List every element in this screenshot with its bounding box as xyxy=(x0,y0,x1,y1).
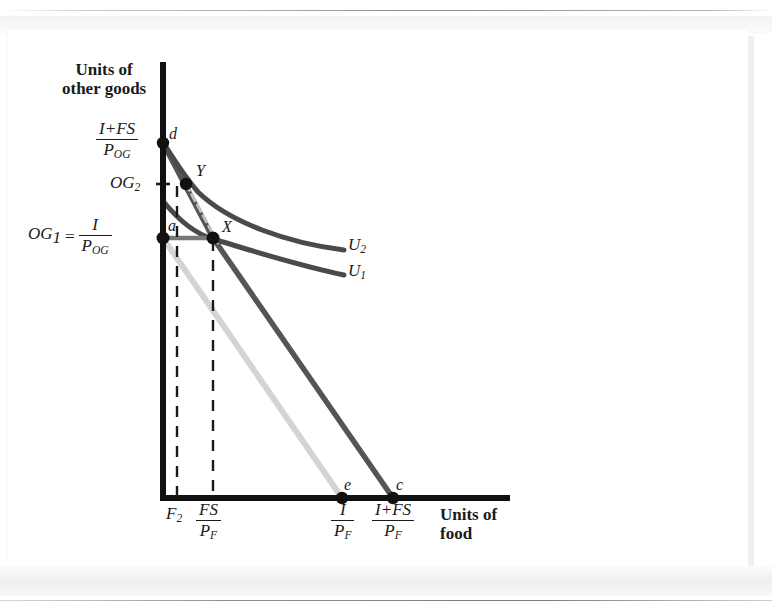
point-label-a: a xyxy=(168,218,176,235)
fraction-numerator: I+FS xyxy=(372,501,414,521)
y-label-income-plus-foodstamps: I+FS POG xyxy=(96,120,138,161)
x-label-i-over-pf: I PF xyxy=(331,501,354,542)
fraction-i-over-pog: I POG xyxy=(79,216,112,257)
fraction-numerator: FS xyxy=(196,501,221,521)
fraction-denominator: PF xyxy=(331,521,354,542)
curve-label-u2: U2 xyxy=(348,236,366,256)
x-label-f2: F2 xyxy=(166,505,182,525)
curve-label-u1: U1 xyxy=(348,262,366,282)
point-label-c: c xyxy=(396,477,403,494)
og1-equation-row: OG1 = I POG xyxy=(28,216,112,257)
point-marker-Y xyxy=(180,178,192,190)
x-axis-title-line2: food xyxy=(440,524,472,543)
point-label-d: d xyxy=(169,126,177,143)
fraction-denominator: POG xyxy=(79,236,112,257)
fraction-i-over-pf: I PF xyxy=(331,501,354,542)
point-marker-X xyxy=(207,232,220,245)
og2-subscript: 2 xyxy=(135,181,141,194)
point-label-e: e xyxy=(344,477,351,494)
u2-symbol: U xyxy=(348,235,360,254)
fraction-numerator: I+FS xyxy=(96,120,138,140)
fraction-i-fs-over-pog: I+FS POG xyxy=(96,120,138,161)
y-axis-title-line2: other goods xyxy=(62,79,146,98)
x-axis-title-line1: Units of xyxy=(440,505,497,524)
fraction-denominator: PF xyxy=(372,521,414,542)
fraction-denominator: POG xyxy=(96,140,138,161)
x-axis-title: Units of food xyxy=(440,505,497,543)
fraction-numerator: I xyxy=(331,501,354,521)
fraction-fs-over-pf: FS PF xyxy=(196,501,221,542)
x-label-fs-over-pf: FS PF xyxy=(196,501,221,542)
point-label-X: X xyxy=(222,219,232,236)
equals-sign: = xyxy=(64,228,75,246)
og1-symbol: OG1 xyxy=(28,225,61,247)
budget-line-food-stamps xyxy=(163,143,393,498)
u1-symbol: U xyxy=(348,261,360,280)
f2-subscript: 2 xyxy=(176,512,182,525)
point-marker-d xyxy=(157,137,169,149)
u1-subscript: 1 xyxy=(360,269,366,282)
f2-symbol: F xyxy=(166,504,176,523)
budget-line-cash-income xyxy=(163,238,342,498)
x-label-i-fs-over-pf: I+FS PF xyxy=(372,501,414,542)
fraction-numerator: I xyxy=(79,216,112,236)
point-label-Y: Y xyxy=(196,163,205,180)
u2-subscript: 2 xyxy=(360,243,366,256)
fraction-i-fs-over-pf: I+FS PF xyxy=(372,501,414,542)
og2-symbol: OG xyxy=(110,173,135,192)
y-label-og1-equation: OG1 = I POG xyxy=(28,216,112,257)
y-axis-title-line1: Units of xyxy=(76,60,133,79)
y-label-og2: OG2 xyxy=(110,174,140,194)
y-axis-title: Units of other goods xyxy=(62,60,146,98)
fraction-denominator: PF xyxy=(196,521,221,542)
